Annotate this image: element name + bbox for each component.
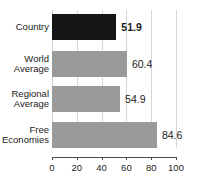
bar-value-label: 84.6 [162, 130, 182, 141]
x-tick-mark [176, 157, 177, 160]
x-tick-mark [52, 157, 53, 160]
bar-value-label: 54.9 [125, 94, 145, 105]
x-tick-label: 60 [121, 162, 132, 173]
x-tick-label: 100 [168, 162, 184, 173]
x-tick-mark [126, 157, 127, 160]
category-label-line: Average [0, 64, 49, 75]
category-axis-labels: CountryWorldAverageRegionalAverageFreeEc… [0, 10, 49, 157]
chart-title [52, 0, 176, 3]
gridline [176, 10, 177, 148]
category-label-line: Country [0, 22, 49, 33]
x-tick-label: 40 [96, 162, 107, 173]
category-label: Country [0, 22, 49, 33]
category-label-line: Economies [0, 135, 49, 146]
x-tick-label: 20 [72, 162, 83, 173]
x-axis-line [52, 157, 177, 158]
bar-value-label: 60.4 [132, 59, 152, 70]
category-label-line: Average [0, 99, 49, 110]
bar [52, 14, 116, 40]
category-label: FreeEconomies [0, 125, 49, 146]
bar [52, 51, 127, 77]
bar [52, 122, 157, 148]
x-tick-mark [77, 157, 78, 160]
x-tick-mark [102, 157, 103, 160]
bar [52, 86, 120, 112]
x-tick-label: 0 [49, 162, 54, 173]
x-tick-mark [151, 157, 152, 160]
category-label: RegionalAverage [0, 89, 49, 110]
x-tick-label: 80 [146, 162, 157, 173]
plot-area: 51.960.454.984.6 [52, 10, 176, 157]
bar-value-label: 51.9 [121, 22, 141, 33]
category-label: WorldAverage [0, 54, 49, 75]
bar-chart: CountryWorldAverageRegionalAverageFreeEc… [0, 0, 197, 178]
